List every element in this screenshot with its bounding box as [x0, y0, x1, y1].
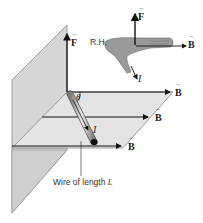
wire-current-label: I [93, 125, 96, 135]
field-label-bottom: B [128, 142, 135, 152]
wire-end [91, 139, 98, 145]
hand-current-arrow [131, 66, 137, 79]
hand-field-label: B [188, 40, 195, 50]
diagram-canvas [0, 0, 203, 223]
right-hand-label: R.H. [90, 38, 107, 47]
field-label-middle: B [155, 113, 162, 123]
hand-force-label: F [138, 12, 144, 22]
wire-caption: Wire of length L [53, 178, 113, 187]
hand-current-label: I [138, 74, 141, 84]
field-label-top: B [175, 88, 182, 98]
angle-label: θ [76, 93, 80, 102]
right-hand-icon [105, 14, 186, 79]
force-label: F [71, 38, 77, 48]
